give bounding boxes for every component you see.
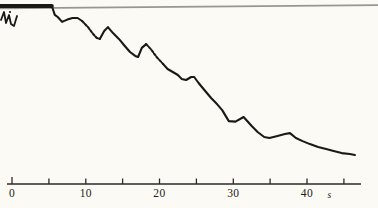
x-axis-tick-label: 10 [80,187,92,199]
chart-figure: 010203040s [0,0,378,208]
start-pen-artifact [1,12,17,26]
x-axis-tick-label: 30 [227,187,239,199]
trace-line-segment [163,64,355,155]
x-axis-tick-label: 40 [301,187,313,199]
recorder-trace-chart: 010203040s [0,0,378,208]
x-axis-tick-label: 0 [9,187,15,199]
x-axis-tick-label: 20 [153,187,165,199]
trace-line-segment [82,21,100,39]
start-pen-artifact-dot [9,11,11,13]
trace-line-segment [100,27,146,57]
x-axis-unit-label: s [328,190,332,200]
reference-line [0,5,378,8]
trace-line-segment [146,44,163,64]
